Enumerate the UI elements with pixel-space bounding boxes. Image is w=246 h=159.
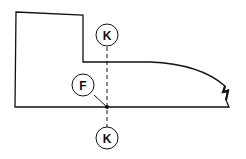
- marker-label: K: [103, 132, 112, 146]
- rough-edge: [223, 86, 228, 100]
- marker-label: K: [103, 29, 112, 43]
- marker-label: F: [79, 79, 86, 93]
- diagram-canvas: K F K: [0, 0, 246, 159]
- leader-line-F: [94, 95, 107, 107]
- marker-K-bottom: K: [96, 127, 118, 149]
- profile-outline: [15, 12, 229, 107]
- marker-K-top: K: [96, 24, 118, 46]
- marker-F: F: [72, 74, 94, 96]
